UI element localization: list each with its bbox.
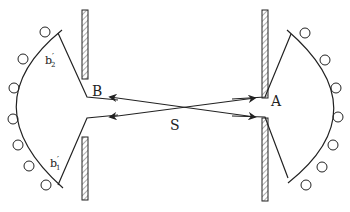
svg-text:2: 2 — [51, 61, 55, 69]
circle-icon — [9, 83, 19, 93]
circle-icon — [41, 180, 51, 190]
circle-icon — [24, 161, 34, 171]
left-barrier-bottom — [82, 137, 88, 200]
circle-icon — [317, 162, 327, 172]
circle-icon — [320, 55, 330, 65]
svg-text:1: 1 — [56, 164, 60, 172]
circle-icon — [8, 114, 18, 124]
svg-text:′: ′ — [52, 52, 54, 62]
label-a: A — [270, 93, 282, 109]
circle-icon — [300, 28, 310, 38]
right-lower-funnel — [232, 116, 288, 178]
label-b2-prime: b 2 ′ — [45, 52, 55, 69]
circle-icon — [18, 54, 28, 64]
circle-icon — [331, 83, 341, 93]
left-barrier-top — [82, 10, 88, 79]
right-barrier-bottom — [262, 118, 268, 201]
label-b: B — [92, 83, 102, 99]
left-circles — [8, 27, 51, 190]
label-s: S — [170, 117, 180, 133]
circle-icon — [301, 180, 311, 190]
svg-text:′: ′ — [57, 155, 59, 165]
circle-icon — [328, 140, 338, 150]
circle-icon — [13, 140, 23, 150]
diagram-canvas: B A S b 2 ′ b 1 ′ — [0, 0, 350, 212]
circle-icon — [40, 27, 50, 37]
right-barrier-top — [262, 10, 268, 98]
right-barrier — [262, 10, 268, 201]
label-b1-prime: b 1 ′ — [50, 155, 60, 172]
right-arc-screen — [287, 30, 334, 183]
left-barrier — [82, 10, 88, 200]
circle-icon — [333, 112, 343, 122]
